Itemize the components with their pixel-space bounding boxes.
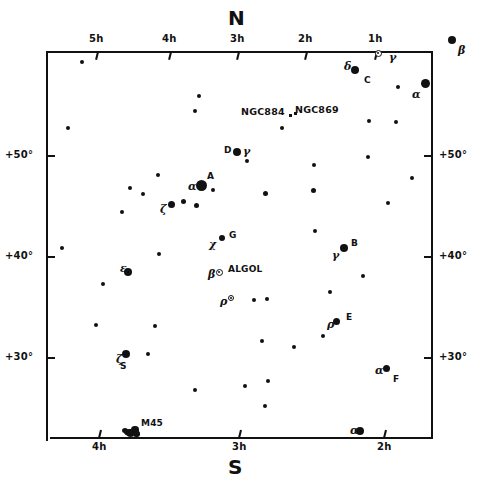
field-star (263, 191, 268, 196)
field-star (66, 126, 70, 130)
dec-tick-label-right: +50° (439, 149, 467, 160)
cardinal-north-label: N (228, 6, 245, 30)
dec-tick-left (46, 357, 55, 359)
named-star-rho-per (228, 295, 234, 301)
star-label-s: S (120, 361, 127, 371)
sky-frame (46, 51, 433, 439)
star-chart: N S 5h4h3h2h1h4h3h2h+50°+40°+30°+50°+40°… (0, 0, 478, 491)
field-star (367, 119, 371, 123)
field-star (321, 334, 325, 338)
named-star-alpha-tri (383, 365, 390, 372)
ra-tick-label-bottom: 4h (92, 441, 107, 452)
field-star (292, 345, 296, 349)
field-star (245, 159, 249, 163)
greek-designation-label: ρ (220, 295, 227, 308)
dec-tick-label-left: +40° (5, 250, 33, 261)
dec-tick-left (46, 256, 55, 258)
greek-designation-label: α (188, 180, 196, 193)
dec-tick-label-right: +30° (439, 351, 467, 362)
greek-designation-label: ρ (327, 318, 334, 331)
field-star (146, 352, 150, 356)
greek-designation-label: α (350, 424, 358, 437)
field-star (394, 120, 398, 124)
ra-tick-label-bottom: 2h (377, 441, 392, 452)
named-star-alpha-and (421, 79, 430, 88)
star-label-d: D (224, 145, 232, 155)
field-star (193, 109, 197, 113)
field-star (328, 290, 332, 294)
ra-tick-label-top: 5h (89, 33, 104, 44)
greek-designation-label: ε (120, 262, 127, 275)
named-star-chi-per (219, 235, 225, 241)
greek-designation-label: γ (389, 51, 396, 64)
dec-tick-left (46, 155, 55, 157)
field-star (156, 173, 160, 177)
field-star (312, 163, 316, 167)
star-label-f: F (393, 374, 399, 384)
named-star-delta-per (351, 66, 359, 74)
star-label-c: C (364, 75, 371, 85)
greek-designation-label: δ (344, 60, 351, 73)
field-star (266, 379, 270, 383)
dec-tick-right (424, 357, 433, 359)
greek-designation-label: α (412, 88, 420, 101)
greek-designation-label: γ (243, 145, 250, 158)
dec-tick-label-right: +40° (439, 250, 467, 261)
field-star (265, 297, 269, 301)
frame-bottom-edge (50, 437, 433, 439)
named-star-zeta-tau (122, 350, 130, 358)
ra-tick-label-top: 3h (230, 33, 245, 44)
field-star (197, 94, 201, 98)
star-label-a: A (207, 171, 214, 181)
field-star (181, 199, 186, 204)
field-star (194, 203, 199, 208)
greek-designation-label: β (208, 268, 215, 281)
field-star (313, 229, 317, 233)
named-star-zeta-per (168, 201, 175, 208)
field-star (361, 274, 365, 278)
star-label-e: E (346, 312, 352, 322)
named-star-gamma-and (340, 244, 348, 252)
greek-designation-label: α (375, 364, 383, 377)
field-star (60, 246, 64, 250)
dec-tick-right (424, 256, 433, 258)
named-star-algol (216, 269, 223, 276)
cardinal-south-label: S (228, 455, 242, 479)
star-label-algol: ALGOL (228, 264, 262, 274)
field-star (153, 324, 157, 328)
ngc-label-ngc884: NGC884 (241, 106, 285, 117)
field-star (94, 323, 98, 327)
field-star (80, 60, 84, 64)
field-star (252, 298, 256, 302)
field-star (157, 252, 161, 256)
named-star-gamma-per (375, 50, 382, 57)
star-label-g: G (229, 230, 237, 240)
star-label-m45: M45 (141, 418, 163, 428)
field-star (193, 388, 197, 392)
greek-designation-label: ζ (160, 203, 167, 216)
ngc-cluster-marker (289, 114, 292, 117)
field-star (120, 210, 124, 214)
field-star (366, 155, 370, 159)
ra-tick-label-top: 1h (368, 33, 383, 44)
field-star (243, 384, 247, 388)
star-label-b: B (351, 238, 358, 248)
field-star (280, 126, 284, 130)
ngc-label-ngc869: NGC869 (295, 104, 339, 115)
named-star-mirfak (196, 180, 207, 191)
frame-right-edge (431, 51, 433, 438)
field-star (311, 188, 316, 193)
field-star (263, 404, 267, 408)
frame-left-edge (46, 51, 48, 441)
ra-tick-label-bottom: 3h (232, 441, 247, 452)
dec-tick-label-left: +50° (5, 149, 33, 160)
greek-designation-label: γ (332, 249, 339, 262)
field-star (396, 85, 400, 89)
greek-designation-label: β (458, 44, 465, 57)
field-star (101, 282, 105, 286)
dec-tick-label-left: +30° (5, 351, 33, 362)
ra-tick-label-top: 2h (298, 33, 313, 44)
ngc-cluster-marker (294, 112, 297, 115)
named-star-gamma-per-d (233, 148, 241, 156)
named-star-beta-cas (448, 36, 456, 44)
